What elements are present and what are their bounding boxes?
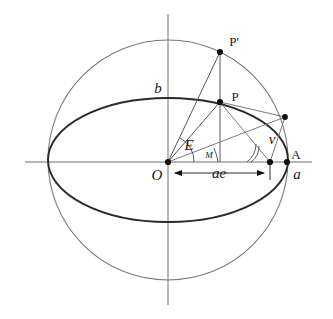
label-semi-minor: b: [154, 80, 162, 96]
ae-arrowhead-left: [174, 170, 182, 176]
label-semi-major: a: [293, 166, 301, 182]
arc-true-anomaly-inner: [251, 146, 259, 162]
label-point-p: P: [231, 89, 238, 104]
label-mean-anomaly: M: [204, 150, 213, 160]
orbit-diagram: O b a A P P' E M v ae: [0, 0, 333, 319]
ae-arrowhead-right: [257, 170, 265, 176]
line-center-to-p-prime: [168, 52, 220, 162]
point-marker-p-prime: [217, 49, 223, 55]
arc-mean-anomaly: [214, 148, 218, 162]
line-p-to-aux-point: [220, 102, 285, 117]
label-eccentric-anomaly: E: [183, 137, 193, 153]
point-marker-center: [165, 159, 171, 165]
orbit-diagram-canvas: O b a A P P' E M v ae: [0, 0, 333, 319]
label-center: O: [152, 167, 163, 183]
label-apsis: A: [291, 147, 301, 162]
label-true-anomaly: v: [269, 131, 276, 147]
label-focal-distance: ae: [212, 165, 227, 181]
label-point-p-prime: P': [229, 34, 239, 49]
point-marker-aux: [282, 114, 288, 120]
point-marker-focus: [267, 159, 273, 165]
point-marker-apsis: [284, 159, 290, 165]
point-marker-p: [217, 99, 223, 105]
